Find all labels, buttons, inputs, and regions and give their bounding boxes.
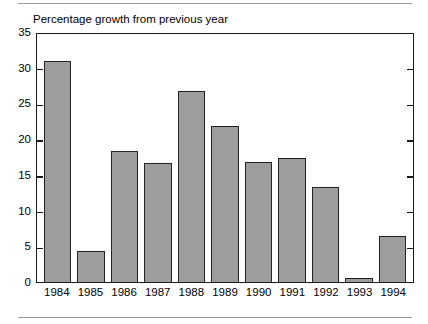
- x-axis-tick-label: 1993: [343, 286, 377, 299]
- bottom-divider-rule: [18, 317, 412, 318]
- x-axis-tick-label: 1990: [242, 286, 276, 299]
- bars-layer: [37, 34, 413, 282]
- bar-1985: [77, 251, 104, 282]
- bar-slot: [242, 34, 275, 282]
- bar-1991: [278, 158, 305, 282]
- bar-slot: [376, 34, 409, 282]
- y-axis-tick-label: 20: [3, 134, 31, 146]
- top-divider-rule: [18, 3, 412, 4]
- y-axis-tick-label: 15: [3, 170, 31, 182]
- chart-title: Percentage growth from previous year: [33, 13, 228, 26]
- x-axis-tick-label: 1985: [74, 286, 108, 299]
- x-axis-labels: 1984198519861987198819891990199119921993…: [36, 286, 414, 299]
- bar-slot: [275, 34, 308, 282]
- bar-slot: [41, 34, 74, 282]
- bar-1992: [312, 187, 339, 282]
- y-axis-tick-label: 0: [3, 277, 31, 289]
- bar-1984: [44, 61, 71, 282]
- bar-1988: [178, 91, 205, 282]
- x-axis-tick-label: 1991: [275, 286, 309, 299]
- y-axis-tick-label: 35: [3, 27, 31, 39]
- x-axis-tick-label: 1992: [309, 286, 343, 299]
- bar-slot: [208, 34, 241, 282]
- x-axis-tick-label: 1986: [107, 286, 141, 299]
- y-axis-labels: 05101520253035: [0, 33, 31, 283]
- bar-slot: [175, 34, 208, 282]
- bar-1989: [211, 126, 238, 282]
- bar-1994: [379, 236, 406, 282]
- bar-1987: [144, 163, 171, 282]
- x-axis-tick-label: 1984: [40, 286, 74, 299]
- y-axis-tick-label: 5: [3, 242, 31, 254]
- bar-1993: [345, 278, 372, 282]
- y-axis-tick-label: 25: [3, 99, 31, 111]
- x-axis-tick-label: 1989: [208, 286, 242, 299]
- bar-slot: [309, 34, 342, 282]
- y-axis-tick-label: 10: [3, 206, 31, 218]
- bar-slot: [74, 34, 107, 282]
- bar-slot: [342, 34, 375, 282]
- bar-slot: [141, 34, 174, 282]
- y-axis-tick-label: 30: [3, 63, 31, 75]
- chart-page: Percentage growth from previous year 051…: [0, 0, 428, 324]
- x-axis-tick-label: 1987: [141, 286, 175, 299]
- x-axis-tick-label: 1994: [376, 286, 410, 299]
- bar-1990: [245, 162, 272, 282]
- bar-slot: [108, 34, 141, 282]
- bar-1986: [111, 151, 138, 282]
- x-axis-tick-label: 1988: [175, 286, 209, 299]
- plot-area: [36, 33, 414, 283]
